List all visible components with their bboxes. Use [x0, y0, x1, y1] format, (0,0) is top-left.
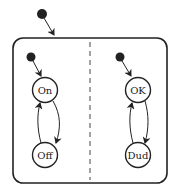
- region-health: OK Dud: [116, 53, 151, 168]
- outer-initial-dot: [37, 9, 47, 19]
- state-diagram: On Off OK Dud: [0, 0, 173, 194]
- state-ok-label: OK: [130, 85, 146, 96]
- power-initial-arrow: [33, 61, 41, 76]
- region-power: On Off: [27, 53, 60, 168]
- state-on-label: On: [38, 85, 53, 96]
- transition-on-to-off: [53, 101, 59, 143]
- health-initial-dot: [116, 53, 125, 62]
- state-on[interactable]: On: [33, 78, 58, 103]
- transition-dud-to-ok: [130, 103, 133, 143]
- outer-initial-arrow: [44, 18, 54, 35]
- transition-off-to-on: [38, 103, 41, 143]
- transition-ok-to-dud: [145, 101, 148, 143]
- power-initial-dot: [27, 53, 36, 62]
- state-dud-label: Dud: [128, 150, 149, 161]
- state-off[interactable]: Off: [33, 143, 58, 168]
- state-off-label: Off: [37, 150, 53, 161]
- state-dud[interactable]: Dud: [126, 143, 151, 168]
- state-ok[interactable]: OK: [126, 78, 151, 103]
- health-initial-arrow: [122, 61, 131, 76]
